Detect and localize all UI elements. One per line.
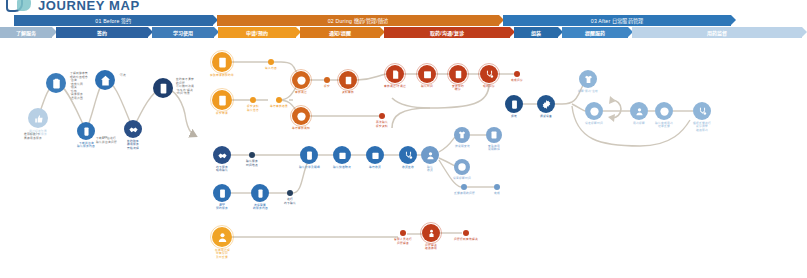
phase-after[interactable]: 03 After 日常服药管理 bbox=[503, 15, 731, 26]
thumbs-up-icon bbox=[32, 112, 45, 125]
journey-node-d7[interactable] bbox=[418, 65, 436, 83]
journey-node-a4[interactable] bbox=[585, 102, 603, 120]
journey-dot-dd3[interactable] bbox=[276, 97, 283, 104]
node-label-d5: 资料审核 bbox=[326, 91, 370, 95]
tablet-icon bbox=[509, 99, 520, 110]
stethoscope-icon bbox=[697, 106, 708, 117]
journey-dot-f2[interactable] bbox=[400, 230, 407, 237]
journey-node-f1[interactable] bbox=[212, 227, 232, 247]
journey-dot-f4[interactable] bbox=[463, 230, 470, 237]
journey-node-a3[interactable] bbox=[579, 70, 597, 88]
journey-node-e4[interactable] bbox=[300, 146, 318, 164]
node-label-f1: 在使用过程 中有疑问 及时反馈 bbox=[200, 249, 244, 260]
journey-node-b2[interactable] bbox=[46, 73, 66, 93]
stethoscope-icon bbox=[484, 69, 495, 80]
journey-dot-ed2[interactable] bbox=[287, 190, 293, 196]
step-take-comm-visit[interactable]: 取药/沟通/复诊 bbox=[384, 27, 510, 38]
journey-node-e3[interactable] bbox=[251, 184, 269, 202]
journey-node-e1[interactable] bbox=[213, 146, 231, 164]
tablet-icon bbox=[304, 150, 315, 161]
journey-dot-dd4[interactable] bbox=[324, 77, 330, 83]
journey-node-a7[interactable] bbox=[693, 102, 711, 120]
phase-during[interactable]: 02 During 缴药/管理/随访 bbox=[217, 15, 499, 26]
journey-node-a2[interactable] bbox=[537, 95, 555, 113]
clock-icon bbox=[457, 162, 467, 172]
clipboard-icon bbox=[50, 77, 63, 90]
journey-node-b5[interactable] bbox=[124, 120, 142, 138]
clock-icon bbox=[659, 106, 670, 117]
user-check-icon bbox=[634, 106, 645, 117]
journey-node-b6[interactable] bbox=[153, 78, 173, 98]
box-add-icon bbox=[337, 150, 348, 161]
dot-label-ed1: 确认服务 时间地点 bbox=[232, 160, 272, 167]
journey-dot-ed3[interactable] bbox=[461, 184, 467, 190]
band-label: 取药/沟通/复诊 bbox=[430, 29, 464, 36]
journey-node-a1[interactable] bbox=[505, 95, 523, 113]
user-check-icon bbox=[425, 150, 436, 161]
step-assemble[interactable]: 组装 bbox=[514, 27, 558, 38]
step-sign[interactable]: 签约 bbox=[56, 27, 148, 38]
journey-dot-ed1[interactable] bbox=[249, 152, 255, 158]
node-label-e11: 设置提醒时间 bbox=[440, 177, 484, 181]
step-apply-book[interactable]: 申请/预约 bbox=[218, 27, 296, 38]
band-label: 02 During 缴药/管理/随访 bbox=[328, 17, 388, 24]
step-learn-use[interactable]: 学习使用 bbox=[152, 27, 214, 38]
journey-node-e9[interactable] bbox=[454, 127, 470, 143]
band-label: 签约 bbox=[97, 29, 107, 36]
phone-icon bbox=[255, 188, 266, 199]
journey-node-d6[interactable] bbox=[386, 65, 404, 83]
handshake-icon bbox=[217, 150, 228, 161]
journey-dot-dd2[interactable] bbox=[250, 97, 257, 104]
phone-icon bbox=[81, 126, 92, 137]
person-icon bbox=[426, 228, 437, 239]
journey-node-b1[interactable] bbox=[28, 108, 48, 128]
form-icon bbox=[216, 94, 229, 107]
journey-node-a5[interactable] bbox=[630, 102, 648, 120]
step-remind-remind[interactable]: 通知/提醒 bbox=[300, 27, 380, 38]
node-label-a3: 提醒·服药·注射 bbox=[566, 90, 610, 94]
journey-node-a6[interactable] bbox=[655, 102, 673, 120]
journey-dot-ed4[interactable] bbox=[494, 184, 500, 190]
step-continue-service[interactable]: 提醒服药 bbox=[562, 27, 628, 38]
node-label-f3: 问题解决 继续使用 bbox=[409, 244, 453, 251]
journey-node-b3[interactable] bbox=[77, 122, 95, 140]
journey-dot-dd6[interactable] bbox=[514, 71, 520, 77]
journey-node-d4[interactable] bbox=[292, 107, 310, 125]
shirt-icon bbox=[457, 130, 467, 140]
alert-circle-icon bbox=[296, 111, 307, 122]
step-medication-supervise[interactable]: 用药监督 bbox=[632, 27, 802, 38]
journey-node-e10[interactable] bbox=[486, 127, 502, 143]
step-know-service[interactable]: 了解服务 bbox=[0, 27, 52, 38]
journey-dot-dd5[interactable] bbox=[379, 113, 385, 119]
tablet-icon bbox=[217, 188, 228, 199]
box-add-icon bbox=[370, 150, 381, 161]
journey-node-d2[interactable] bbox=[212, 90, 232, 110]
node-label-a2: 调试设备 bbox=[524, 115, 568, 119]
journey-node-d9[interactable] bbox=[480, 65, 498, 83]
dot-label-ed4: 完成 bbox=[477, 192, 517, 196]
journey-node-e6[interactable] bbox=[366, 146, 384, 164]
band-label: 了解服务 bbox=[16, 29, 37, 36]
band-label: 提醒服药 bbox=[585, 29, 606, 36]
file-icon bbox=[390, 69, 401, 80]
journey-node-d8[interactable] bbox=[449, 65, 467, 83]
journey-node-e7[interactable] bbox=[399, 146, 417, 164]
journey-dot-dd1[interactable] bbox=[268, 59, 275, 66]
note-b4-note: ·可选 bbox=[119, 74, 149, 78]
journey-node-e11[interactable] bbox=[454, 159, 470, 175]
handshake-icon bbox=[128, 124, 139, 135]
list-icon bbox=[453, 69, 464, 80]
journey-node-e8[interactable] bbox=[421, 146, 439, 164]
journey-node-f3[interactable] bbox=[422, 224, 440, 242]
page-title: JOURNEY MAP bbox=[38, 0, 140, 13]
band-label: 01 Before 签约 bbox=[95, 17, 131, 24]
journey-node-e2[interactable] bbox=[213, 184, 231, 202]
journey-node-d1[interactable] bbox=[212, 52, 232, 72]
band-label: 学习使用 bbox=[173, 29, 194, 36]
dot-label-dd4: 提交 bbox=[307, 85, 347, 89]
step-band: 了解服务签约学习使用申请/预约通知/提醒取药/沟通/复诊组装提醒服药用药监督 bbox=[0, 27, 802, 38]
journey-node-e5[interactable] bbox=[333, 146, 351, 164]
phase-before[interactable]: 01 Before 签约 bbox=[14, 15, 213, 26]
node-label-d9: 现场问诊 bbox=[467, 85, 511, 89]
form-icon bbox=[216, 56, 229, 69]
